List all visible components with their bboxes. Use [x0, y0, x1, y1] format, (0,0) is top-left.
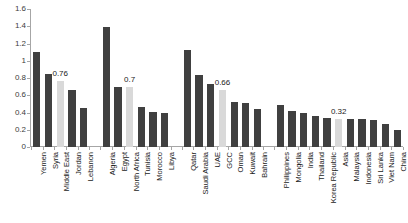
x-axis-category-label: Viet Nam: [388, 152, 396, 183]
bar-group: 0.7: [100, 9, 170, 147]
x-axis-tick-mark: [368, 147, 369, 150]
bar-slot[interactable]: [66, 9, 78, 147]
bar-slot[interactable]: 0.66: [217, 9, 229, 147]
bar[interactable]: [358, 119, 365, 147]
y-axis-tick-label: 1: [22, 57, 26, 65]
y-axis-tick-mark: [27, 44, 30, 45]
bar-slot[interactable]: 0.7: [124, 9, 136, 147]
x-axis-category-label: Bahrain: [261, 152, 269, 178]
x-axis-category-label: Lebanon: [87, 152, 95, 181]
bar[interactable]: [231, 102, 238, 147]
x-axis-tick-mark: [124, 147, 125, 150]
bar[interactable]: [300, 113, 307, 147]
bar-slot[interactable]: [100, 9, 112, 147]
x-axis-category-label: Syria: [52, 152, 60, 169]
bar[interactable]: [33, 52, 40, 147]
x-axis-category-label: Indonesia: [365, 152, 373, 185]
x-axis-category-label: Philippines: [283, 152, 291, 188]
bar[interactable]: [184, 50, 191, 147]
bar-highlight[interactable]: [219, 90, 226, 147]
bar[interactable]: [195, 75, 202, 147]
x-axis-tick-mark: [380, 147, 381, 150]
x-axis-category-label: Malaysia: [353, 152, 361, 182]
bar-slot[interactable]: [240, 9, 252, 147]
x-axis-category-label: UAE: [214, 152, 222, 167]
bar-slot[interactable]: [159, 9, 171, 147]
bar-slot[interactable]: [368, 9, 380, 147]
x-axis-tick-mark: [274, 147, 275, 150]
bar-slot[interactable]: 0.32: [333, 9, 345, 147]
x-axis-category-label: Sri Lanka: [377, 152, 385, 184]
bar[interactable]: [382, 124, 389, 147]
bar[interactable]: [277, 105, 284, 147]
x-axis-category-label: India: [307, 152, 315, 168]
y-axis-tick-mark: [27, 147, 30, 148]
bar-slot[interactable]: [321, 9, 333, 147]
bar[interactable]: [114, 87, 121, 147]
x-axis-category-label: Morocco: [156, 152, 164, 181]
bar-slot[interactable]: [193, 9, 205, 147]
x-axis-tick-mark: [252, 147, 253, 150]
x-axis-tick-mark: [205, 147, 206, 150]
x-axis-tick-mark: [228, 147, 229, 150]
y-axis-tick-mark: [27, 78, 30, 79]
x-axis-tick-mark: [78, 147, 79, 150]
bar[interactable]: [312, 116, 319, 147]
y-axis-tick-mark: [27, 95, 30, 96]
bar-highlight[interactable]: [126, 87, 133, 147]
bar[interactable]: [68, 90, 75, 147]
bar-slot[interactable]: [298, 9, 310, 147]
x-axis-category-label: Kuwait: [249, 152, 257, 175]
bar-slot[interactable]: [391, 9, 403, 147]
bar-slot[interactable]: [309, 9, 321, 147]
plot-area: 0.760.70.660.32: [31, 9, 403, 147]
bar-slot[interactable]: [286, 9, 298, 147]
x-axis-tick-mark: [321, 147, 322, 150]
x-axis-category-label: GCC: [226, 152, 234, 169]
bar[interactable]: [80, 108, 87, 147]
x-axis-tick-mark: [263, 147, 264, 150]
bar-slot[interactable]: [182, 9, 194, 147]
bar-slot[interactable]: [228, 9, 240, 147]
bar[interactable]: [347, 119, 354, 147]
bar[interactable]: [103, 27, 110, 147]
bar-slot[interactable]: [345, 9, 357, 147]
bar[interactable]: [370, 120, 377, 147]
bar[interactable]: [254, 109, 261, 147]
y-axis-tick-label: 0.4: [15, 109, 26, 117]
x-axis-tick-mark: [147, 147, 148, 150]
bar-slot[interactable]: [136, 9, 148, 147]
bar[interactable]: [149, 112, 156, 147]
x-axis-tick-mark: [89, 147, 90, 150]
bar-slot[interactable]: [112, 9, 124, 147]
bar-slot[interactable]: [31, 9, 43, 147]
x-axis-tick-mark: [333, 147, 334, 150]
bar-slot[interactable]: [274, 9, 286, 147]
bar-group: 0.76: [31, 9, 89, 147]
bar-highlight[interactable]: [57, 81, 64, 147]
bar[interactable]: [323, 118, 330, 147]
y-axis-tick-mark: [27, 113, 30, 114]
x-axis-tick-mark: [54, 147, 55, 150]
bar-slot[interactable]: [252, 9, 264, 147]
bar[interactable]: [394, 130, 401, 147]
bar-highlight[interactable]: [335, 119, 342, 147]
bar-slot[interactable]: [356, 9, 368, 147]
bar[interactable]: [288, 111, 295, 147]
bar-slot[interactable]: [380, 9, 392, 147]
x-axis-category-label: Libya: [168, 152, 176, 170]
bar-slot[interactable]: [78, 9, 90, 147]
x-axis-tick-mark: [298, 147, 299, 150]
y-axis-tick-mark: [27, 26, 30, 27]
y-axis: 00.20.40.60.811.21.41.6: [0, 0, 30, 223]
bar[interactable]: [138, 107, 145, 147]
bar-slot[interactable]: [147, 9, 159, 147]
bar[interactable]: [242, 103, 249, 147]
bar-slot[interactable]: 0.76: [54, 9, 66, 147]
bar[interactable]: [45, 74, 52, 147]
bar[interactable]: [207, 84, 214, 147]
bar[interactable]: [161, 113, 168, 147]
y-axis-tick-label: 1.4: [15, 22, 26, 30]
x-axis-tick-mark: [391, 147, 392, 150]
